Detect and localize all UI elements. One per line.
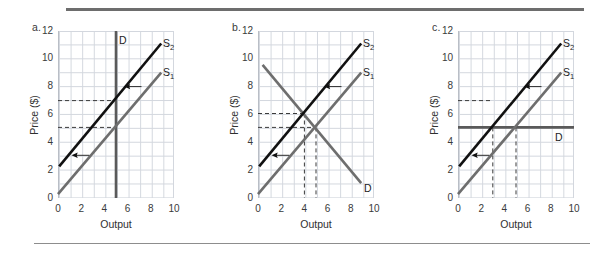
panel-c-xtick-8: 8 xyxy=(548,204,554,214)
panel-b-ytick-12: 12 xyxy=(242,26,253,36)
panel-c-xtick-4: 4 xyxy=(502,204,508,214)
panel-c-curves xyxy=(458,31,574,198)
panel-b: b. Price ($) Output 0 2 4 6 8 10 12 0 2 … xyxy=(202,18,402,240)
panel-b-xtick-10: 10 xyxy=(368,204,379,214)
panel-c-y-axis-label: Price ($) xyxy=(428,95,440,135)
panel-c-x-axis-label: Output xyxy=(500,218,532,230)
panel-c: c. Price ($) Output 0 2 4 6 8 10 12 0 2 … xyxy=(402,18,602,240)
panel-a: a. Price ($) Output 0 2 4 6 8 10 12 0 2 … xyxy=(2,18,202,240)
panel-a-xtick-6: 6 xyxy=(125,204,131,214)
panel-c-letter: c. xyxy=(432,21,441,33)
panel-c-shift-arrow-lower xyxy=(472,153,490,158)
panel-b-label-demand: D xyxy=(364,183,372,194)
panel-c-ytick-8: 8 xyxy=(447,81,453,91)
panel-c-ytick-6: 6 xyxy=(447,109,453,119)
panel-a-ytick-4: 4 xyxy=(47,137,53,147)
panel-b-ytick-8: 8 xyxy=(247,81,253,91)
panel-a-plot-area: Price ($) Output 0 2 4 6 8 10 12 0 2 4 6… xyxy=(58,31,174,198)
panel-b-xtick-6: 6 xyxy=(325,204,331,214)
panel-c-xtick-6: 6 xyxy=(525,204,531,214)
panel-c-supply-1-curve xyxy=(458,73,561,195)
panel-b-x-axis-label: Output xyxy=(300,218,332,230)
panel-b-ytick-4: 4 xyxy=(247,137,253,147)
panel-a-curves xyxy=(58,31,174,198)
panel-b-shift-arrow-lower xyxy=(272,153,290,158)
panel-b-ytick-0: 0 xyxy=(247,193,253,203)
bottom-rule-divider xyxy=(34,243,590,244)
panel-c-plot-area: Price ($) Output 0 2 4 6 8 10 12 0 2 4 6… xyxy=(458,31,574,198)
panel-b-xtick-0: 0 xyxy=(255,204,261,214)
panel-b-xtick-8: 8 xyxy=(348,204,354,214)
panel-b-letter: b. xyxy=(232,21,241,33)
panel-a-shift-arrow-lower xyxy=(72,153,90,158)
panel-c-xtick-0: 0 xyxy=(455,204,461,214)
panel-c-supply-2-curve xyxy=(459,44,561,167)
panel-a-supply-1-curve xyxy=(58,73,161,195)
panel-b-supply-1-curve xyxy=(258,73,361,195)
panel-a-xtick-0: 0 xyxy=(55,204,61,214)
panel-c-ytick-2: 2 xyxy=(447,165,453,175)
panel-a-label-supply-1: S1 xyxy=(163,67,174,81)
panel-a-letter: a. xyxy=(32,21,41,33)
panel-a-label-supply-2: S2 xyxy=(163,38,174,52)
panel-a-x-axis-label: Output xyxy=(100,218,132,230)
panel-a-y-axis-label: Price ($) xyxy=(28,95,40,135)
panel-b-label-supply-1: S1 xyxy=(363,67,374,81)
panel-b-plot-area: Price ($) Output 0 2 4 6 8 10 12 0 2 4 6… xyxy=(258,31,374,198)
panel-a-xtick-4: 4 xyxy=(102,204,108,214)
panel-c-label-supply-1: S1 xyxy=(563,67,574,81)
panel-b-xtick-2: 2 xyxy=(278,204,284,214)
panel-c-ytick-10: 10 xyxy=(442,53,453,63)
panel-a-xtick-2: 2 xyxy=(78,204,84,214)
panel-b-curves xyxy=(258,31,374,198)
panel-a-ytick-2: 2 xyxy=(47,165,53,175)
panel-b-ytick-6: 6 xyxy=(247,109,253,119)
panel-a-ytick-0: 0 xyxy=(47,193,53,203)
panel-c-label-supply-2: S2 xyxy=(563,38,574,52)
panel-a-supply-2-curve xyxy=(59,44,161,167)
panel-b-xtick-4: 4 xyxy=(302,204,308,214)
panel-c-label-demand: D xyxy=(555,132,563,143)
panel-c-xtick-2: 2 xyxy=(478,204,484,214)
panel-b-ytick-2: 2 xyxy=(247,165,253,175)
panel-a-ytick-8: 8 xyxy=(47,81,53,91)
panel-c-ytick-4: 4 xyxy=(447,137,453,147)
panel-a-xtick-8: 8 xyxy=(148,204,154,214)
panel-c-xtick-10: 10 xyxy=(568,204,579,214)
panel-b-ytick-10: 10 xyxy=(242,53,253,63)
panel-c-ytick-0: 0 xyxy=(447,193,453,203)
top-rule-divider xyxy=(66,8,584,11)
panel-b-y-axis-label: Price ($) xyxy=(228,95,240,135)
panel-a-ytick-10: 10 xyxy=(42,53,53,63)
panel-b-demand-curve xyxy=(263,65,362,183)
panel-c-ytick-12: 12 xyxy=(442,26,453,36)
panel-a-xtick-10: 10 xyxy=(168,204,179,214)
panel-a-ytick-6: 6 xyxy=(47,109,53,119)
panel-b-supply-2-curve xyxy=(259,44,361,167)
economics-supply-shift-figure: a. Price ($) Output 0 2 4 6 8 10 12 0 2 … xyxy=(0,0,602,254)
panel-a-ytick-12: 12 xyxy=(42,26,53,36)
panel-b-label-supply-2: S2 xyxy=(363,38,374,52)
panel-a-label-demand: D xyxy=(119,35,127,46)
